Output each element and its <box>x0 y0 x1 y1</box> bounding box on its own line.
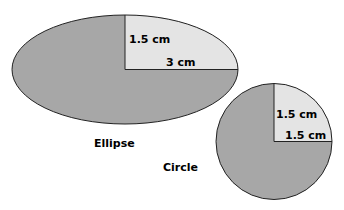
shapes-diagram: 1.5 cm 3 cm 1.5 cm 1.5 cm Ellipse Circle <box>0 0 344 210</box>
ellipse-shape <box>12 10 245 124</box>
circle-radius-vertical-label: 1.5 cm <box>276 108 317 121</box>
ellipse-caption: Ellipse <box>94 137 135 150</box>
ellipse-semi-minor-label: 1.5 cm <box>129 33 170 46</box>
ellipse-semi-major-label: 3 cm <box>166 56 195 69</box>
circle-caption: Circle <box>163 161 198 174</box>
circle-radius-horizontal-label: 1.5 cm <box>285 129 326 142</box>
